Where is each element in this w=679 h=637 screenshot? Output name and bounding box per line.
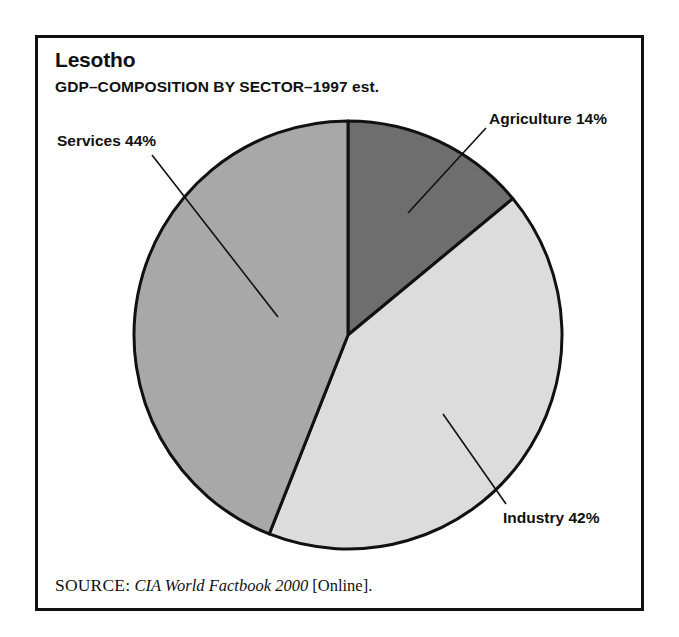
source-note: SOURCE: CIA World Factbook 2000 [Online]…	[55, 575, 372, 596]
figure-pie-chart: Lesotho GDP–COMPOSITION BY SECTOR–1997 e…	[0, 0, 679, 637]
source-publication: CIA World Factbook 2000	[134, 576, 308, 595]
slice-label-agriculture: Agriculture 14%	[489, 110, 607, 128]
slice-label-services: Services 44%	[57, 132, 156, 150]
source-label: SOURCE:	[55, 575, 130, 595]
slice-label-industry: Industry 42%	[503, 509, 599, 527]
pie-chart-graphic	[0, 0, 679, 637]
source-medium: [Online].	[312, 576, 372, 595]
